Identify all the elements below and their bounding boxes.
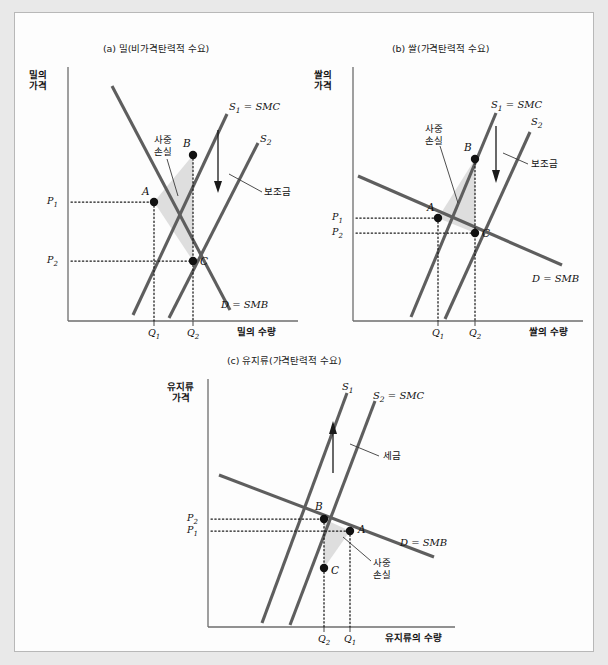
panel-a-p1-label: P1 xyxy=(47,195,58,209)
panel-a-q2-sub: 2 xyxy=(195,333,199,341)
panel-b-plot xyxy=(300,33,590,353)
panel-b-q2-letter: Q xyxy=(469,327,477,338)
panel-b-dwl-label-line2: 손실 xyxy=(425,135,443,146)
panel-c-supply2-label: S1 xyxy=(342,381,354,395)
panel-b-q2-label: Q2 xyxy=(469,327,481,341)
panel-c-supply1-suffix: = SMC xyxy=(385,390,424,401)
panel-b-point-a-dot xyxy=(434,214,442,222)
panel-a-p1-sub: 1 xyxy=(53,201,57,209)
panel-b: (b) 쌀(가격탄력적 수요) 쌀의 가격 xyxy=(300,33,590,353)
panel-b-supply1-curve xyxy=(411,113,496,317)
panel-b-supply1-suffix: = SMC xyxy=(503,99,542,110)
panel-b-point-c-dot xyxy=(471,229,479,237)
panel-a-supply2-letter: S xyxy=(260,133,267,144)
panel-b-q2-sub: 2 xyxy=(477,333,481,341)
panel-a-supply1-label: S1 = SMC xyxy=(229,101,280,115)
panel-c-supply1-letter: S xyxy=(373,390,380,401)
panel-c: (c) 유지류(가격탄력적 수요) 유지류 가격 xyxy=(157,345,467,645)
panel-a-demand-label: D = SMB xyxy=(221,299,268,310)
panel-b-p2-sub: 2 xyxy=(338,232,342,240)
panel-b-x-axis-label: 쌀의 수량 xyxy=(529,326,568,337)
panel-b-policy-label: 보조금 xyxy=(531,158,558,170)
panel-a-p2-sub: 2 xyxy=(53,260,57,268)
panel-a-dwl-label: 사중 손실 xyxy=(154,134,172,157)
panel-c-dwl-leader xyxy=(343,537,371,561)
panel-c-x-axis-label: 유지류의 수량 xyxy=(385,632,442,643)
panel-a-point-a-label: A xyxy=(142,185,150,197)
panel-c-q2-letter: Q xyxy=(318,633,326,644)
panel-a-deadweight-loss-area xyxy=(154,155,193,261)
panel-b-q1-letter: Q xyxy=(432,327,440,338)
panel-c-supply2-sub: 1 xyxy=(349,386,354,395)
panel-a-supply2-label: S2 xyxy=(260,133,272,147)
panel-c-q1-label: Q1 xyxy=(344,633,356,647)
panel-c-dwl-label: 사중 손실 xyxy=(373,557,391,580)
panel-b-p1-sub: 1 xyxy=(338,217,342,225)
panel-b-dwl-label: 사중 손실 xyxy=(425,123,443,146)
panel-b-p2-label: P2 xyxy=(332,226,343,240)
panel-b-supply1-letter: S xyxy=(491,99,498,110)
panel-a-q1-sub: 1 xyxy=(156,333,160,341)
panel-c-supply1-label: S2 = SMC xyxy=(373,390,424,404)
panel-a-demand-curve xyxy=(112,86,230,310)
panel-b-demand-label: D = SMB xyxy=(532,273,579,284)
panel-a-dwl-label-line2: 손실 xyxy=(154,146,172,157)
panel-a-q1-label: Q1 xyxy=(148,327,160,341)
panel-c-p1-sub: 1 xyxy=(193,530,197,538)
panel-b-q1-label: Q1 xyxy=(432,327,444,341)
panel-b-q1-sub: 1 xyxy=(440,333,444,341)
panel-c-p1-label: P1 xyxy=(187,524,198,538)
panel-b-supply2-label: S2 xyxy=(531,116,543,130)
panel-a-q2-letter: Q xyxy=(187,327,195,338)
panel-c-point-a-dot xyxy=(346,527,354,535)
panel-a: (a) 밀(비가격탄력적 수요) 밀의 가격 xyxy=(15,33,305,353)
panel-a-point-b-label: B xyxy=(183,137,191,149)
panel-c-q2-label: Q2 xyxy=(318,633,330,647)
panel-c-point-b-label: B xyxy=(315,500,323,512)
panel-a-q2-label: Q2 xyxy=(187,327,199,341)
panel-a-shift-arrow-head xyxy=(214,181,222,193)
panel-a-p2-label: P2 xyxy=(47,254,58,268)
panel-c-point-b-dot xyxy=(320,515,328,523)
panel-c-q1-sub: 1 xyxy=(352,639,356,647)
panel-c-dwl-label-line2: 손실 xyxy=(373,569,391,580)
page-root: (a) 밀(비가격탄력적 수요) 밀의 가격 xyxy=(0,0,608,665)
panel-c-demand-label: D = SMB xyxy=(400,537,447,548)
panel-a-dwl-label-line1: 사중 xyxy=(154,134,172,145)
panel-b-deadweight-loss-area xyxy=(438,159,475,233)
panel-c-q2-sub: 2 xyxy=(326,639,330,647)
panel-a-x-axis-label: 밀의 수량 xyxy=(237,326,276,337)
panel-b-point-b-dot xyxy=(471,155,479,163)
panel-c-dwl-label-line1: 사중 xyxy=(373,557,391,568)
panel-b-supply2-letter: S xyxy=(531,116,538,127)
panel-a-point-c-dot xyxy=(189,257,197,265)
panel-a-q1-letter: Q xyxy=(148,327,156,338)
panel-c-point-a-label: A xyxy=(358,523,366,535)
panel-a-supply1-suffix: = SMC xyxy=(241,101,280,112)
panel-a-point-a-dot xyxy=(150,198,158,206)
panel-b-point-b-label: B xyxy=(464,141,472,153)
panel-c-policy-label: 세금 xyxy=(383,450,401,462)
panel-c-supply2-letter: S xyxy=(342,381,349,392)
panel-a-supply1-letter: S xyxy=(229,101,236,112)
panel-b-supply2-sub: 2 xyxy=(538,121,543,130)
panel-b-shift-arrow-head xyxy=(492,170,500,183)
panel-c-q1-letter: Q xyxy=(344,633,352,644)
panel-b-point-a-label: A xyxy=(427,201,435,213)
panel-b-supply1-label: S1 = SMC xyxy=(491,99,542,113)
panel-b-dwl-leader xyxy=(440,146,458,203)
figure-frame: (a) 밀(비가격탄력적 수요) 밀의 가격 xyxy=(14,12,594,652)
panel-b-point-c-label: C xyxy=(482,227,490,239)
panel-b-dwl-label-line1: 사중 xyxy=(425,123,443,134)
panel-c-point-c-dot xyxy=(320,564,328,572)
panel-c-point-c-label: C xyxy=(331,564,339,576)
panel-a-policy-label: 보조금 xyxy=(264,186,291,198)
panel-a-point-c-label: C xyxy=(200,255,208,267)
panel-a-supply2-sub: 2 xyxy=(267,138,272,147)
panel-a-point-b-dot xyxy=(189,151,197,159)
panel-b-p1-label: P1 xyxy=(332,211,343,225)
